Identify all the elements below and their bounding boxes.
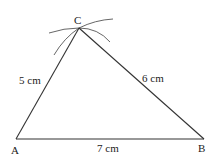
vertex-label-a: A — [11, 144, 19, 156]
side-label-cb: 6 cm — [142, 72, 164, 84]
side-label-ac: 5 cm — [19, 74, 41, 86]
triangle-diagram: C A B 5 cm 6 cm 7 cm — [0, 0, 220, 166]
construction-arc-from-b — [49, 28, 110, 42]
vertex-label-b: B — [198, 142, 205, 154]
vertex-label-c: C — [74, 14, 81, 26]
side-label-ab: 7 cm — [97, 142, 119, 154]
